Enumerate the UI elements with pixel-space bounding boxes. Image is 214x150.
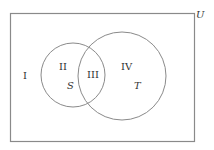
universe-rectangle [11, 14, 195, 142]
region-iii-label: III [87, 69, 99, 80]
set-t-label: T [134, 80, 142, 91]
region-ii-label: II [59, 61, 67, 72]
region-iv-label: IV [121, 61, 133, 72]
universe-label: U [196, 9, 205, 20]
set-s-label: S [67, 80, 74, 91]
venn-diagram: U I II III IV S T [0, 0, 214, 150]
region-i-label: I [23, 70, 27, 81]
